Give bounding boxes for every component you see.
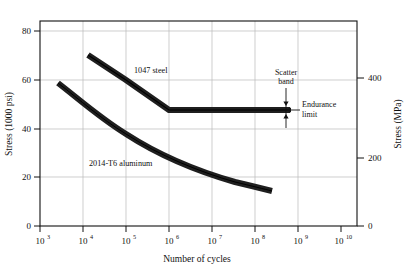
series-label-steel: 1047 steel (134, 66, 168, 75)
svg-text:10: 10 (208, 236, 218, 246)
scatter-band-label-line1: Scatter (275, 68, 298, 77)
tick-label-left-20: 20 (22, 172, 32, 182)
endurance-limit-label-line2: limit (302, 110, 318, 119)
tick-label-left-60: 60 (22, 75, 32, 85)
endurance-limit-label-line1: Endurance (302, 100, 337, 109)
tick-label-left-80: 80 (22, 26, 32, 36)
svg-text:10: 10 (122, 236, 132, 246)
y-axis-title-right: Stress (MPa) (393, 99, 404, 148)
svg-text:4: 4 (90, 233, 93, 240)
x-axis-title: Number of cycles (163, 254, 231, 264)
svg-text:7: 7 (219, 233, 222, 240)
series-label-aluminum: 2014-T6 aluminum (89, 159, 153, 168)
svg-text:10: 10 (294, 236, 304, 246)
scatter-band-label-line2: band (278, 77, 294, 86)
svg-text:10: 10 (251, 236, 261, 246)
tick-label-right-0: 0 (368, 221, 373, 231)
svg-text:6: 6 (176, 233, 179, 240)
svg-text:10: 10 (36, 236, 46, 246)
svg-text:3: 3 (47, 233, 50, 240)
tick-label-left-40: 40 (22, 124, 32, 134)
fatigue-s-n-chart: 80 60 40 20 0 400 200 0 10 3 10 4 (0, 0, 412, 274)
y-axis-title-left: Stress (1000 psi) (4, 92, 15, 156)
tick-label-right-400: 400 (368, 73, 382, 83)
svg-text:8: 8 (262, 233, 265, 240)
tick-label-left-0: 0 (27, 221, 32, 231)
svg-text:10: 10 (346, 233, 352, 240)
svg-text:10: 10 (79, 236, 89, 246)
svg-text:9: 9 (305, 233, 308, 240)
svg-text:5: 5 (133, 233, 136, 240)
tick-label-right-200: 200 (368, 153, 382, 163)
svg-text:10: 10 (165, 236, 175, 246)
svg-text:10: 10 (335, 236, 345, 246)
